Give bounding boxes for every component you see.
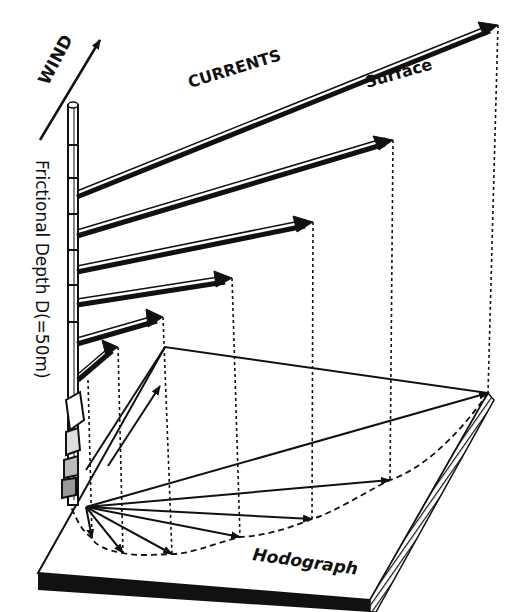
hodograph-plate bbox=[38, 347, 494, 612]
current-arrow-2 bbox=[77, 136, 393, 236]
current-arrow-4 bbox=[77, 271, 232, 305]
current-arrow-6 bbox=[78, 340, 118, 380]
ekman-spiral-diagram: WIND CURRENTS Surface Frictional Depth D… bbox=[0, 0, 509, 612]
surface-label: Surface bbox=[363, 55, 435, 92]
currents-label: CURRENTS bbox=[186, 46, 283, 92]
depth-axis-label: Frictional Depth D(=50m) bbox=[32, 160, 52, 379]
current-arrows bbox=[77, 22, 498, 380]
wind-label: WIND bbox=[34, 31, 77, 88]
current-arrow-5 bbox=[77, 309, 163, 344]
